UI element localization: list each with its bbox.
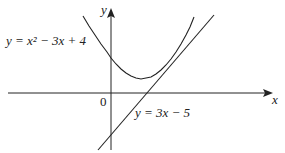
y-axis-label: y (99, 2, 107, 17)
parabola-label: y = x² − 3x + 4 (4, 33, 87, 48)
y-axis (107, 8, 115, 150)
tangent-line (98, 15, 214, 150)
x-axis-label: x (271, 92, 278, 107)
parabola-curve-fine (83, 16, 194, 79)
tangent-line-label: y = 3x − 5 (133, 105, 191, 120)
graph-canvas: y x 0 y = x² − 3x + 4 y = 3x − 5 (0, 0, 285, 153)
x-axis (8, 89, 273, 97)
origin-label: 0 (100, 94, 107, 109)
